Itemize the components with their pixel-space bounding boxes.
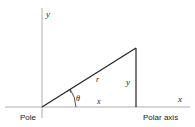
y-axis-label: y (45, 9, 50, 19)
radius-line (42, 48, 136, 107)
x-axis-label: x (177, 94, 182, 104)
pole-label: Pole (20, 113, 37, 122)
angle-label: θ (76, 94, 80, 103)
opposite-side-label: y (125, 77, 130, 87)
polar-axis-label: Polar axis (143, 113, 178, 122)
adjacent-side-label: x (96, 97, 101, 106)
radius-label: r (96, 75, 100, 84)
polar-coordinates-diagram: y x r y x θ Pole Polar axis (0, 0, 195, 127)
